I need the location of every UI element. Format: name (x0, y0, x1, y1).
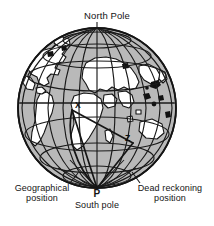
label-south-pole: South pole (62, 200, 132, 210)
label-north-pole: North Pole (57, 11, 157, 22)
globe-navigation-figure: North Pole Geographical position Dead re… (0, 0, 214, 226)
label-dead-reckoning-position: Dead reckoning position (127, 183, 213, 203)
label-point-x: X (75, 101, 81, 110)
land-island-b (136, 110, 141, 114)
label-point-z: Z (125, 134, 130, 143)
label-south-pole-marker: P (78, 188, 116, 199)
